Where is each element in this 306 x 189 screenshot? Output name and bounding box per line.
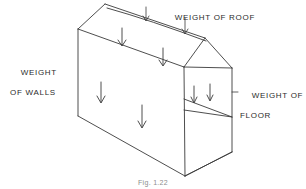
label-weight-of-roof-line1: WEIGHT OF ROOF [175, 13, 255, 22]
near-gable-vertical-edge [184, 67, 185, 176]
floor-load-arrows [191, 84, 213, 103]
roof-front-plane-right-edge [184, 38, 205, 67]
open-end-bottom-edge [185, 152, 232, 176]
label-weight-of-floor-line1: WEIGHT OF [252, 91, 303, 100]
floor-plane-front-edge [184, 99, 232, 117]
front-wall-top-edge [78, 29, 184, 67]
roof-arrow-2 [159, 48, 167, 66]
near-gable-slope-right [184, 67, 232, 68]
figure-caption: Fig. 1.22 [0, 179, 306, 186]
wall-arrow-2 [138, 105, 146, 128]
wall-arrow-1 [97, 82, 105, 103]
near-gable-upper-slope [205, 38, 232, 68]
left-gable-slope [78, 4, 105, 29]
label-weight-of-walls: WEIGHT OF WALLS [9, 58, 57, 118]
label-weight-of-roof: WEIGHT OF ROOF [163, 3, 255, 33]
front-wall-bottom-edge [78, 116, 185, 176]
wall-load-arrows [97, 82, 146, 128]
label-weight-of-walls-line1: WEIGHT [21, 68, 57, 77]
label-weight-of-walls-line2: OF WALLS [9, 88, 57, 98]
figure-container: WEIGHT OF ROOF WEIGHT OF WALLS WEIGHT OF… [0, 0, 306, 189]
floor-arrow-2 [207, 84, 213, 101]
floor-arrow-1 [191, 86, 197, 103]
label-weight-of-floor: WEIGHT OF FLOOR [240, 81, 303, 141]
label-weight-of-floor-line2: FLOOR [240, 111, 303, 121]
roof-load-arrows [118, 28, 167, 66]
floor-plane-back-edge [184, 110, 232, 117]
